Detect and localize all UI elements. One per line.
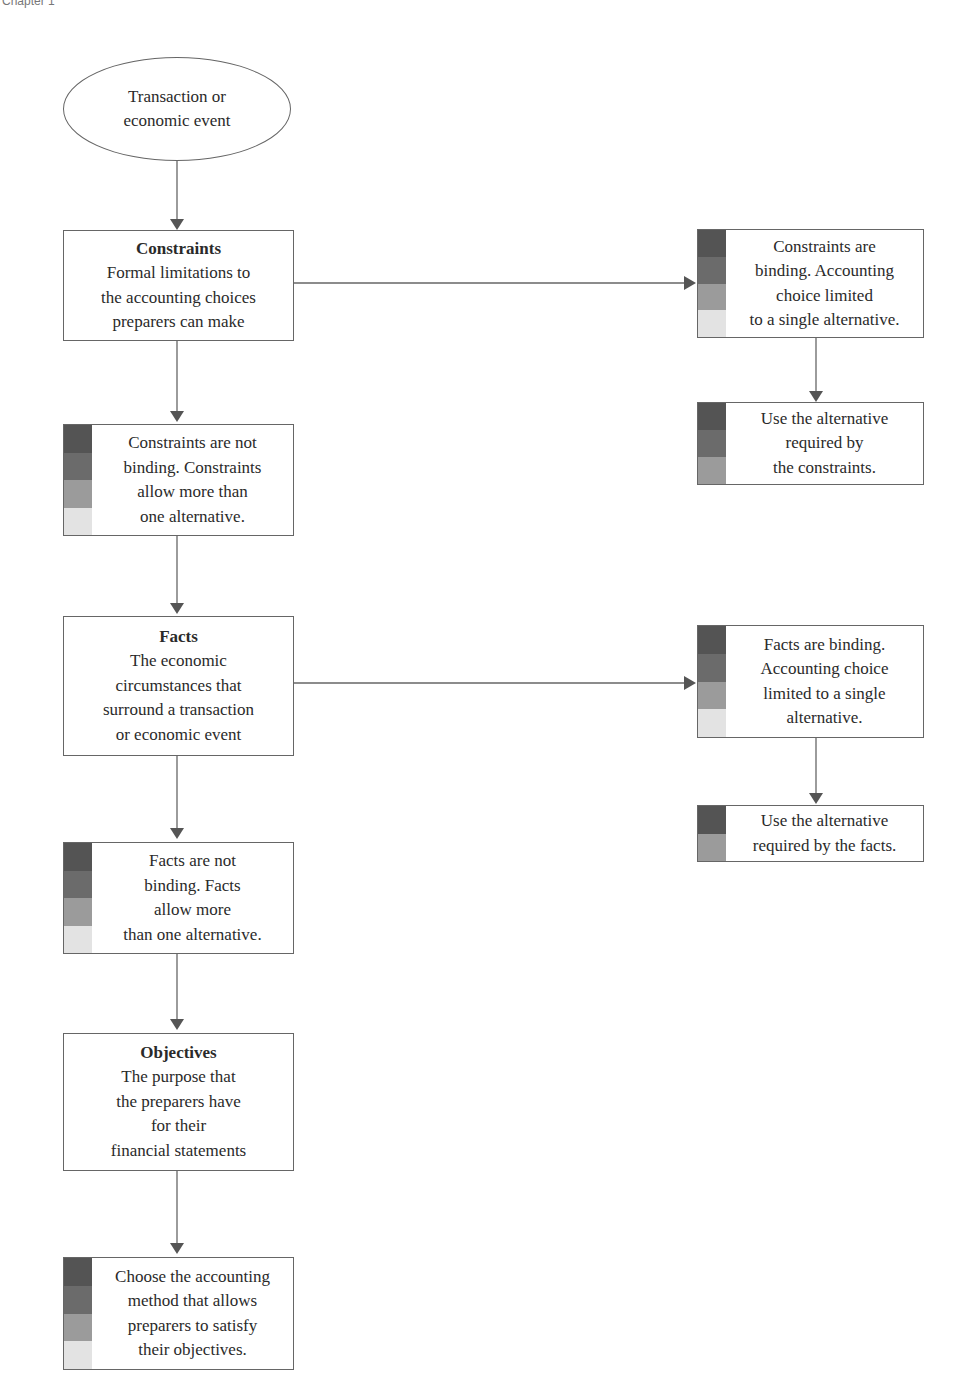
arrow-down-icon — [170, 828, 184, 839]
node-text: method that allows — [115, 1289, 270, 1314]
arrow-down-icon — [170, 1019, 184, 1030]
node-text: Choose the accounting — [115, 1265, 270, 1290]
node-text: for their — [111, 1114, 246, 1139]
node-text: Constraints are — [749, 235, 899, 260]
node-text: one alternative. — [124, 505, 262, 530]
node-text: the accounting choices — [101, 286, 256, 311]
arrow-down-icon — [809, 793, 823, 804]
node-text: circumstances that — [103, 674, 254, 699]
shade-bar — [698, 403, 726, 484]
constraints-node: Constraints Formal limitations to the ac… — [63, 230, 294, 341]
shade-bar — [698, 626, 726, 737]
node-text: Constraints are not — [124, 431, 262, 456]
node-text: required by the facts. — [753, 834, 897, 859]
node-text: financial statements — [111, 1139, 246, 1164]
facts-not-binding-node: Facts are not binding. Facts allow more … — [63, 842, 294, 954]
node-text: preparers to satisfy — [115, 1314, 270, 1339]
node-text: the constraints. — [761, 456, 888, 481]
facts-node: Facts The economic circumstances that su… — [63, 616, 294, 756]
node-text: Use the alternative — [753, 809, 897, 834]
node-text: or economic event — [103, 723, 254, 748]
node-title: Objectives — [111, 1041, 246, 1066]
node-text: allow more than — [124, 480, 262, 505]
node-title: Facts — [103, 625, 254, 650]
facts-binding-node: Facts are binding. Accounting choice lim… — [697, 625, 924, 738]
arrow-down-icon — [170, 411, 184, 422]
node-text: Use the alternative — [761, 407, 888, 432]
facts-use-node: Use the alternative required by the fact… — [697, 805, 924, 862]
constraints-not-binding-node: Constraints are not binding. Constraints… — [63, 424, 294, 536]
node-text: Facts are binding. — [761, 633, 889, 658]
node-text: preparers can make — [101, 310, 256, 335]
node-text: economic event — [123, 109, 230, 133]
choose-method-node: Choose the accounting method that allows… — [63, 1257, 294, 1370]
node-text: required by — [761, 431, 888, 456]
constraints-binding-node: Constraints are binding. Accounting choi… — [697, 229, 924, 338]
shade-bar — [64, 425, 92, 535]
shade-bar — [64, 1258, 92, 1369]
node-text: binding. Constraints — [124, 456, 262, 481]
shade-bar — [698, 230, 726, 337]
node-text: Facts are not — [123, 849, 261, 874]
objectives-node: Objectives The purpose that the preparer… — [63, 1033, 294, 1171]
arrow-down-icon — [170, 1243, 184, 1254]
node-text: allow more — [123, 898, 261, 923]
node-text: to a single alternative. — [749, 308, 899, 333]
node-text: their objectives. — [115, 1338, 270, 1363]
arrow-down-icon — [170, 219, 184, 230]
arrow-right-icon — [684, 676, 696, 690]
start-node-transaction: Transaction or economic event — [63, 57, 291, 161]
node-text: choice limited — [749, 284, 899, 309]
node-text: The economic — [103, 649, 254, 674]
constraints-use-node: Use the alternative required by the cons… — [697, 402, 924, 485]
shade-bar — [64, 843, 92, 953]
node-text: binding. Accounting — [749, 259, 899, 284]
arrow-down-icon — [809, 391, 823, 402]
node-text: The purpose that — [111, 1065, 246, 1090]
node-text: limited to a single — [761, 682, 889, 707]
node-text: Accounting choice — [761, 657, 889, 682]
arrow-right-icon — [684, 276, 696, 290]
node-text: the preparers have — [111, 1090, 246, 1115]
node-text: surround a transaction — [103, 698, 254, 723]
node-text: Formal limitations to — [101, 261, 256, 286]
node-title: Constraints — [101, 237, 256, 262]
node-text: than one alternative. — [123, 923, 261, 948]
arrow-down-icon — [170, 603, 184, 614]
node-text: binding. Facts — [123, 874, 261, 899]
node-text: Transaction or — [123, 85, 230, 109]
node-text: alternative. — [761, 706, 889, 731]
shade-bar — [698, 806, 726, 861]
